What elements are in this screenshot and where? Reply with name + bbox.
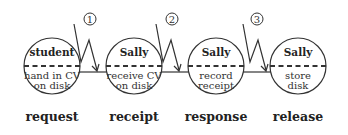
node-release: Sally store disk release (270, 38, 326, 124)
node-receipt: Sally receive CV on disk receipt (106, 38, 162, 124)
phase-label: response (185, 109, 248, 124)
node-action-line2: on disk (116, 80, 153, 91)
node-request: student hand in CV on disk request (24, 38, 81, 124)
node-role: Sally (202, 46, 231, 58)
node-role: Sally (284, 46, 313, 58)
lightning-arrow-icon (243, 24, 266, 70)
process-diagram: student hand in CV on disk request Sally… (0, 0, 348, 135)
node-action-line2: on disk (34, 80, 71, 91)
transition-3: 3 (243, 13, 268, 71)
node-action-line2: receipt (198, 80, 234, 91)
phase-label: receipt (109, 109, 159, 124)
step-number: 2 (169, 14, 175, 25)
step-number: 1 (87, 14, 93, 25)
node-role: student (30, 46, 75, 58)
phase-label: request (25, 109, 78, 124)
node-action-line2: disk (288, 80, 310, 91)
step-number: 3 (254, 14, 260, 25)
phase-label: release (273, 109, 323, 124)
node-response: Sally record receipt response (185, 38, 248, 124)
node-role: Sally (120, 46, 149, 58)
